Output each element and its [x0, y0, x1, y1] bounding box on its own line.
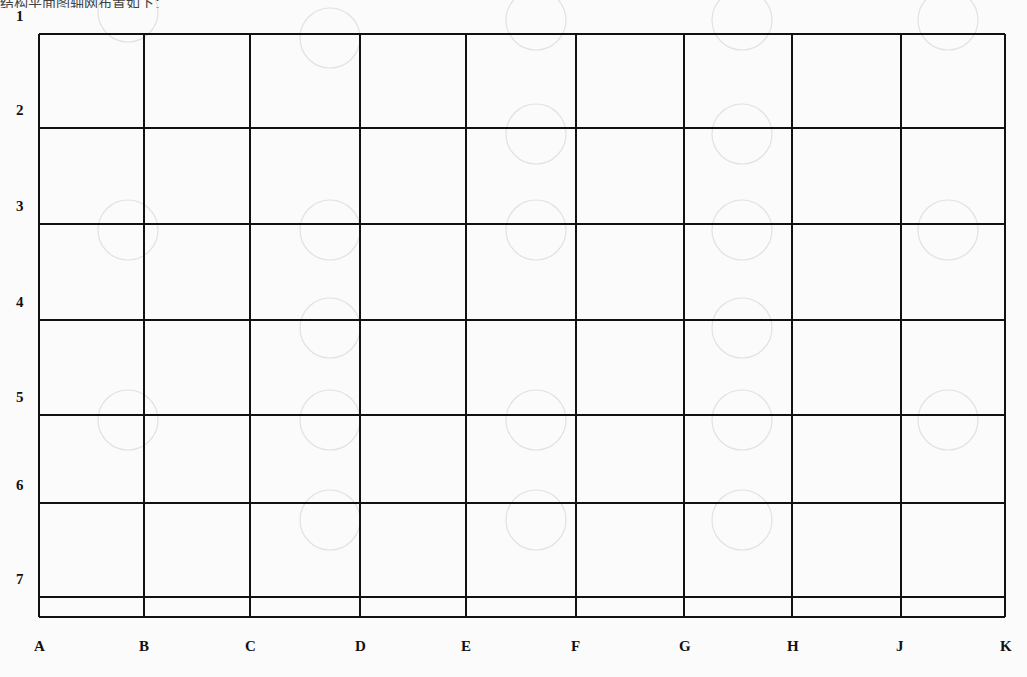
column-label-H: H	[787, 638, 799, 655]
column-label-D: D	[355, 638, 366, 655]
row-label-7: 7	[16, 571, 24, 588]
row-label-5: 5	[16, 389, 24, 406]
column-label-F: F	[571, 638, 580, 655]
row-label-3: 3	[16, 198, 24, 215]
axis-grid	[0, 0, 1027, 677]
column-label-C: C	[245, 638, 256, 655]
row-label-2: 2	[16, 102, 24, 119]
column-label-B: B	[139, 638, 149, 655]
row-label-6: 6	[16, 477, 24, 494]
column-label-A: A	[34, 638, 45, 655]
row-label-1: 1	[16, 8, 24, 25]
column-label-J: J	[896, 638, 904, 655]
grid-lines	[39, 34, 1005, 617]
column-label-E: E	[461, 638, 471, 655]
faint-background-circles	[98, 0, 978, 550]
column-label-G: G	[679, 638, 691, 655]
column-label-K: K	[1000, 638, 1012, 655]
row-label-4: 4	[16, 294, 24, 311]
